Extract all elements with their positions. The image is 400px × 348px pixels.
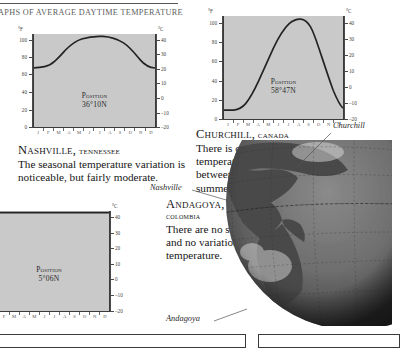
churchill-c-unit: °C — [346, 8, 352, 14]
chart-andagoya: °C Position 5°06N 40 30 20 10 0 –10 –20 … — [0, 198, 152, 320]
month-label: J — [95, 130, 105, 135]
month-label: N — [90, 314, 100, 319]
caption-nashville-city: Nashville, — [18, 143, 76, 157]
month-label: O — [125, 130, 135, 135]
caption-nashville-title: Nashville, tennessee — [18, 144, 193, 157]
header-rule — [0, 3, 178, 4]
churchill-f-tick-60: 60 — [198, 58, 217, 64]
caption-churchill-region: canada — [258, 129, 289, 140]
month-label: A — [64, 130, 74, 135]
andagoya-c-tick-20: 20 — [115, 245, 120, 251]
month-label: A — [294, 122, 304, 127]
month-label: O — [80, 314, 90, 319]
andagoya-c-tick-0: 0 — [115, 276, 118, 282]
nashville-f-unit: °F — [18, 26, 23, 32]
month-label: J — [273, 122, 283, 127]
churchill-c-tick-0: 0 — [349, 84, 352, 90]
andagoya-temperature-curve — [0, 211, 109, 311]
churchill-f-tick-80: 80 — [198, 39, 217, 45]
andagoya-position-annotation: Position 5°06N — [0, 266, 109, 283]
caption-churchill-city: Churchill, — [196, 127, 255, 141]
andagoya-c-tick-neg10: –10 — [115, 292, 123, 298]
churchill-position-label: Position — [271, 77, 297, 86]
month-label: J — [49, 314, 59, 319]
nashville-position-label: Position — [82, 91, 108, 100]
nashville-f-tick-0: 0 — [8, 124, 27, 130]
globe-svg — [222, 140, 392, 326]
month-label: F — [43, 130, 53, 135]
andagoya-position-label: Position — [36, 265, 62, 274]
month-label: S — [304, 122, 314, 127]
churchill-f-tick-0: 0 — [198, 116, 217, 122]
month-label: J — [39, 314, 49, 319]
caption-nashville: Nashville, tennessee The seasonal temper… — [18, 144, 193, 184]
nashville-c-tick-20: 20 — [161, 66, 166, 72]
nashville-c-tick-10: 10 — [161, 80, 166, 86]
map-label-churchill: Churchill — [333, 121, 365, 130]
month-label: S — [70, 314, 80, 319]
churchill-c-tick-10: 10 — [349, 68, 354, 74]
nashville-c-unit: °C — [158, 26, 164, 32]
month-label: M — [9, 314, 19, 319]
andagoya-c-tick-neg20: –20 — [115, 308, 123, 314]
bottom-box-left — [0, 334, 246, 348]
nashville-f-tick-60: 60 — [8, 71, 27, 77]
churchill-c-tick-20: 20 — [349, 52, 354, 58]
churchill-position-value: 58°47N — [224, 87, 343, 96]
nashville-c-tick-0: 0 — [161, 95, 164, 101]
churchill-c-tick-neg10: –10 — [349, 100, 357, 106]
month-label: F — [0, 314, 9, 319]
running-head: APHS OF AVERAGE DAYTIME TEMPERATURE — [0, 8, 188, 17]
andagoya-c-tick-30: 30 — [115, 230, 120, 236]
month-label: M — [54, 130, 64, 135]
chart-churchill: °F °C Position 58°47N 100 80 60 40 20 0 … — [196, 8, 386, 130]
andagoya-c-tick-10: 10 — [115, 261, 120, 267]
nashville-c-tick-neg10: –10 — [161, 110, 169, 116]
nashville-temperature-curve — [34, 34, 155, 127]
caption-andagoya-city: Andagoya, — [166, 197, 224, 211]
chart-nashville: °F °C Position 36°10N 100 80 60 40 20 0 … — [0, 26, 172, 138]
month-label: D — [100, 314, 110, 319]
month-label: M — [29, 314, 39, 319]
month-label: J — [33, 130, 43, 135]
churchill-c-tick-40: 40 — [349, 20, 354, 26]
month-label: A — [19, 314, 29, 319]
month-label: A — [105, 130, 115, 135]
month-label: O — [314, 122, 324, 127]
month-label: N — [136, 130, 146, 135]
churchill-f-tick-100: 100 — [198, 20, 217, 26]
nashville-position-value: 36°10N — [34, 101, 155, 110]
caption-nashville-region: tennessee — [79, 145, 120, 156]
churchill-f-tick-20: 20 — [198, 97, 217, 103]
nashville-c-tick-30: 30 — [161, 51, 166, 57]
churchill-temperature-curve — [224, 16, 343, 119]
caption-nashville-body: The seasonal temperature variation is no… — [18, 158, 193, 184]
map-label-nashville: Nashville — [150, 183, 182, 192]
andagoya-month-axis: J F M A M J J A S O N D — [0, 314, 110, 319]
map-label-andagoya: Andagoya — [166, 314, 200, 323]
nashville-f-tick-100: 100 — [8, 37, 27, 43]
month-label: D — [146, 130, 156, 135]
nashville-c-tick-40: 40 — [161, 37, 166, 43]
bottom-box-right — [258, 334, 400, 348]
month-label: J — [84, 130, 94, 135]
nashville-f-tick-40: 40 — [8, 89, 27, 95]
nashville-c-tick-neg20: –20 — [161, 124, 169, 130]
churchill-c-tick-30: 30 — [349, 36, 354, 42]
andagoya-position-value: 5°06N — [0, 275, 109, 284]
nashville-position-annotation: Position 36°10N — [34, 92, 155, 109]
andagoya-plot-area: Position 5°06N — [0, 211, 110, 312]
churchill-plot-area: Position 58°47N — [223, 16, 344, 120]
month-label: M — [74, 130, 84, 135]
globe-image — [222, 140, 392, 326]
churchill-c-axis — [344, 16, 345, 120]
andagoya-c-unit: °C — [112, 203, 118, 209]
nashville-plot-area: Position 36°10N — [33, 34, 156, 128]
month-label: J — [283, 122, 293, 127]
nashville-f-tick-20: 20 — [8, 107, 27, 113]
andagoya-c-axis — [110, 211, 111, 312]
churchill-f-tick-40: 40 — [198, 78, 217, 84]
nashville-month-axis: J F M A M J J A S O N D — [33, 130, 156, 135]
churchill-f-unit: °F — [208, 8, 213, 14]
